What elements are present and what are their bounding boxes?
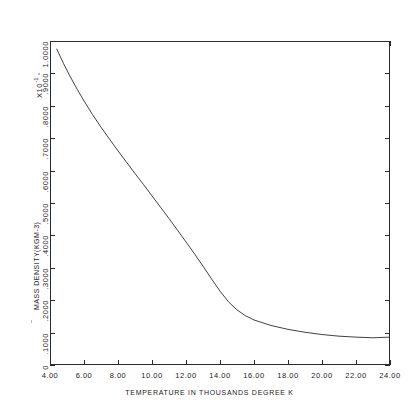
y-axis-tick xyxy=(50,171,55,172)
x-axis-tick-label: 12.00 xyxy=(175,371,196,380)
x-axis-tick-label: 4.00 xyxy=(42,371,59,380)
y-axis-tick-label: 1.0000 xyxy=(41,41,50,68)
y-axis-tick-label: .1000 xyxy=(41,333,50,355)
x-axis-tick-label: 6.00 xyxy=(76,371,93,380)
x-axis-tick-label: 10.00 xyxy=(141,371,162,380)
x-axis-tick xyxy=(220,360,221,365)
y-axis-tick-right xyxy=(385,203,390,204)
x-axis-tick xyxy=(356,360,357,365)
x-axis-tick xyxy=(152,360,153,365)
y-axis-tick-right xyxy=(385,138,390,139)
x-axis-tick-label: 24.00 xyxy=(379,371,400,380)
chart-figure: X10-1 MASS DENSITY(KGM-3) 0.1000.2000.30… xyxy=(0,0,419,417)
x-axis-tick-top xyxy=(50,41,51,46)
y-axis-tick-right xyxy=(385,300,390,301)
x-axis-tick-label: 18.00 xyxy=(277,371,298,380)
scan-artifact xyxy=(31,320,32,323)
y-axis-tick-label: .4000 xyxy=(41,235,50,257)
x-axis-tick-top xyxy=(390,41,391,46)
x-axis-title: TEMPERATURE IN THOUSANDS DEGREE K xyxy=(125,389,293,396)
y-axis-tick-right xyxy=(385,365,390,366)
y-axis-tick-label: .9000 xyxy=(41,73,50,95)
x-axis-tick xyxy=(84,360,85,365)
y-axis-tick xyxy=(50,203,55,204)
x-axis-tick-label: 22.00 xyxy=(345,371,366,380)
y-axis-tick xyxy=(50,106,55,107)
y-axis-tick-label: .5000 xyxy=(41,203,50,225)
x-axis-tick xyxy=(390,360,391,365)
y-axis-tick-label: .3000 xyxy=(41,268,50,290)
y-axis-tick xyxy=(50,300,55,301)
y-axis-tick-label: 0 xyxy=(41,365,50,370)
y-axis-title: MASS DENSITY(KGM-3) xyxy=(33,222,40,310)
x-axis-tick-label: 14.00 xyxy=(209,371,230,380)
y-axis-tick-right xyxy=(385,235,390,236)
y-axis-multiplier-exponent: -1 xyxy=(33,78,39,83)
x-axis-tick xyxy=(288,360,289,365)
y-axis-tick-label: .7000 xyxy=(41,138,50,160)
y-axis-tick xyxy=(50,138,55,139)
y-axis-tick xyxy=(50,365,55,366)
x-axis-tick-label: 20.00 xyxy=(311,371,332,380)
x-axis-tick xyxy=(50,360,51,365)
x-axis-tick xyxy=(322,360,323,365)
x-axis-tick-label: 16.00 xyxy=(243,371,264,380)
y-axis-tick-right xyxy=(385,73,390,74)
chart-curve-layer xyxy=(50,41,390,365)
y-axis-tick xyxy=(50,235,55,236)
data-series-mass-density xyxy=(57,49,390,338)
y-axis-tick xyxy=(50,73,55,74)
y-axis-tick-right xyxy=(385,333,390,334)
y-axis-tick xyxy=(50,333,55,334)
y-axis-tick-right xyxy=(385,171,390,172)
x-axis-tick xyxy=(118,360,119,365)
y-axis-tick-label: .8000 xyxy=(41,106,50,128)
y-axis-tick-label: .6000 xyxy=(41,171,50,193)
y-axis-tick xyxy=(50,268,55,269)
y-axis-tick-right xyxy=(385,268,390,269)
x-axis-tick xyxy=(186,360,187,365)
y-axis-tick-right xyxy=(385,106,390,107)
y-axis-tick-label: .2000 xyxy=(41,300,50,322)
x-axis-tick xyxy=(254,360,255,365)
x-axis-tick-label: 8.00 xyxy=(110,371,127,380)
